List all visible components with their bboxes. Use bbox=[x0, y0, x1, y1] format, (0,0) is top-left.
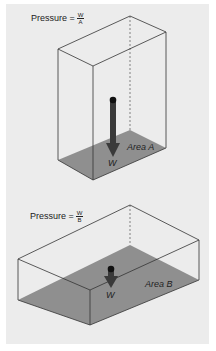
fraction: WA bbox=[77, 12, 85, 25]
fraction-denominator: A bbox=[77, 19, 85, 25]
top-box bbox=[58, 16, 166, 180]
formula-label: Pressure = bbox=[31, 13, 75, 23]
fraction-numerator: W bbox=[77, 12, 85, 19]
area-b-label: Area B bbox=[145, 279, 173, 289]
bottom-box bbox=[18, 205, 199, 325]
weight-label: W bbox=[108, 158, 117, 168]
weight-label: W bbox=[106, 290, 115, 300]
fraction-denominator: B bbox=[76, 217, 84, 223]
top-formula: Pressure =WA bbox=[31, 12, 84, 25]
fraction: WB bbox=[76, 210, 84, 223]
fraction-numerator: W bbox=[76, 210, 84, 217]
area-a-label: Area A bbox=[127, 142, 154, 152]
formula-label: Pressure = bbox=[30, 211, 74, 221]
bottom-formula: Pressure =WB bbox=[30, 210, 83, 223]
